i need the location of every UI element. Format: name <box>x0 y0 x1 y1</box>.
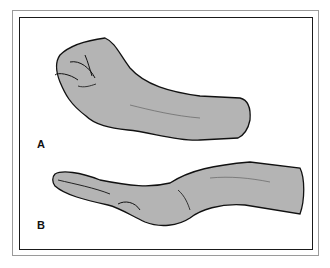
fist-figure-a <box>55 38 250 140</box>
panel-label-a: A <box>37 138 45 150</box>
panel-label-b: B <box>37 219 45 231</box>
hand-illustration <box>0 0 330 268</box>
flat-hand-figure-b <box>53 162 304 225</box>
